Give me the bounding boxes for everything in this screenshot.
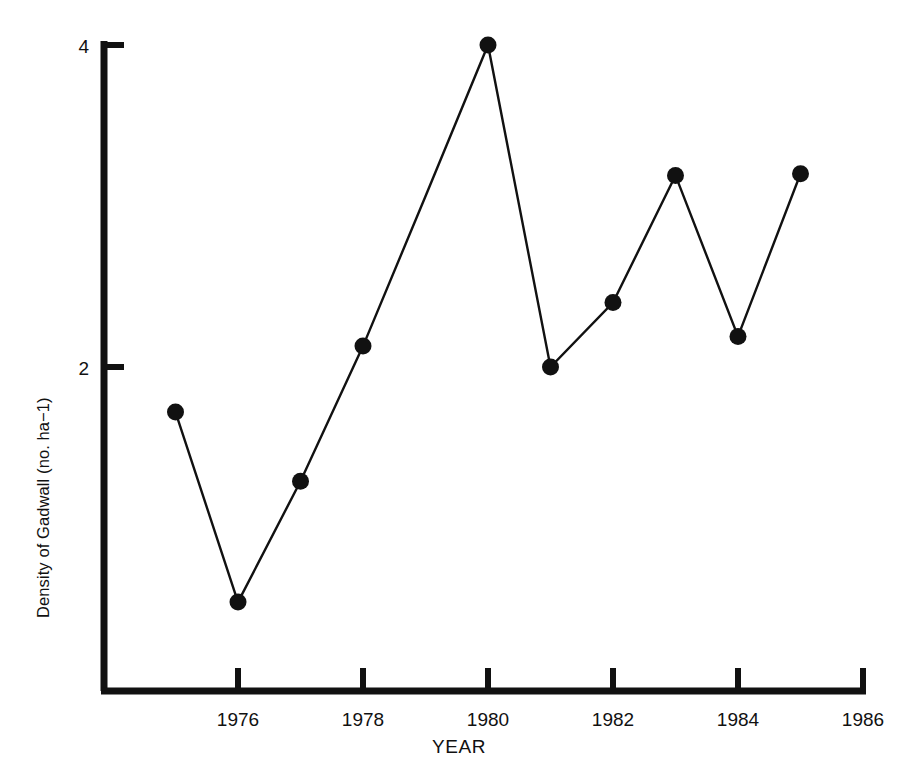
x-tick-label-1978: 1978 bbox=[342, 709, 384, 730]
data-point-1977 bbox=[292, 473, 309, 490]
data-point-1980 bbox=[480, 37, 497, 54]
data-point-1985 bbox=[792, 165, 809, 182]
data-point-1975 bbox=[167, 404, 184, 421]
x-tick-label-1976: 1976 bbox=[217, 709, 259, 730]
y-tick-label-4: 4 bbox=[78, 36, 89, 57]
data-line-gadwall bbox=[176, 45, 801, 602]
x-tick-label-1980: 1980 bbox=[467, 709, 509, 730]
x-axis-title-text: YEAR bbox=[432, 736, 486, 758]
data-markers-group bbox=[167, 37, 809, 611]
x-tick-label-1986: 1986 bbox=[842, 709, 884, 730]
data-point-1976 bbox=[230, 594, 247, 611]
x-tick-label-1984: 1984 bbox=[717, 709, 760, 730]
x-axis-title: YEAR bbox=[0, 736, 906, 758]
data-point-1981 bbox=[542, 359, 559, 376]
y-axis-title: Density of Gadwall (no. ha−1) bbox=[34, 397, 53, 618]
line-chart-plot: 4 2 1976 1978 1980 1982 1984 1986 bbox=[0, 0, 906, 779]
chart-figure: 4 2 1976 1978 1980 1982 1984 1986 Densit… bbox=[0, 0, 906, 779]
y-tick-label-2: 2 bbox=[78, 358, 89, 379]
data-point-1982 bbox=[605, 294, 622, 311]
x-tick-label-1982: 1982 bbox=[592, 709, 634, 730]
data-point-1978 bbox=[355, 338, 372, 355]
data-point-1984 bbox=[730, 328, 747, 345]
data-point-1983 bbox=[667, 167, 684, 184]
